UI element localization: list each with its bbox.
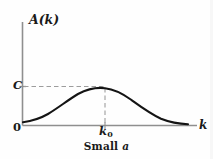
x-tick-label-k0: k0 [99, 126, 113, 138]
caption-variable: a [122, 140, 129, 152]
caption-prefix: Small [84, 140, 118, 152]
y-tick-label-c: C [13, 80, 22, 92]
y-axis-label: A(k) [29, 14, 59, 27]
x-tick-label-k0-subscript: 0 [107, 129, 113, 139]
x-tick-label-k0-base: k [99, 124, 107, 138]
origin-label: 0 [13, 122, 21, 134]
x-axis-label: k [199, 119, 207, 131]
figure-container: A(k) C 0 k k0 Small a [0, 0, 213, 159]
figure-caption: Small a [0, 140, 213, 152]
